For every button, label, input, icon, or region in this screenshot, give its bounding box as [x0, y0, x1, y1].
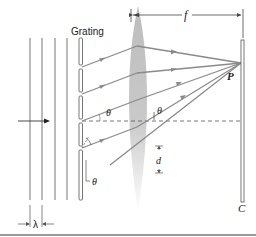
wavelength-label: λ — [33, 219, 38, 230]
angle-theta-grating: θ — [106, 107, 111, 118]
bottom-divider — [0, 234, 256, 236]
screen-c-label: C — [238, 202, 246, 214]
incident-arrow — [18, 119, 50, 124]
slit-spacing-label: d — [156, 155, 162, 166]
angle-theta-bottom-marker — [82, 136, 91, 181]
grating-label: Grating — [71, 26, 104, 37]
point-p-label: P — [227, 70, 234, 82]
screen — [241, 40, 244, 202]
focal-length-label: f — [184, 8, 189, 22]
angle-theta-lens: θ — [157, 105, 162, 116]
angle-theta-bottom: θ — [92, 176, 97, 187]
diffraction-grating-diagram: f Grating P C θ θ θ d λ — [0, 0, 256, 237]
lens — [129, 6, 147, 212]
grating — [79, 38, 83, 200]
wavefronts — [30, 38, 67, 200]
